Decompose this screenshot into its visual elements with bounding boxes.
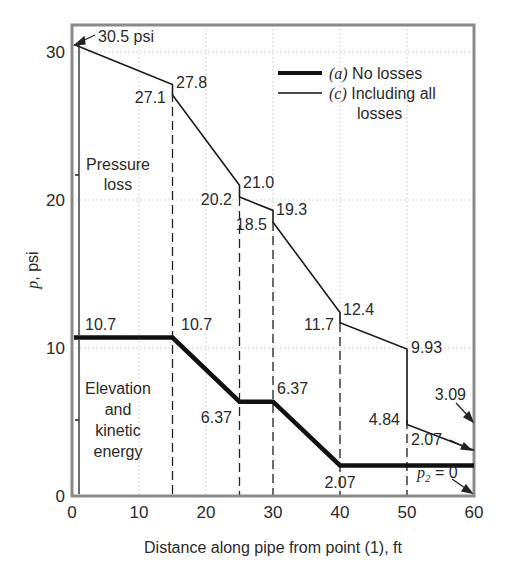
svg-text:19.3: 19.3 (276, 201, 307, 218)
svg-text:40: 40 (331, 503, 350, 522)
svg-text:Elevation: Elevation (85, 380, 151, 397)
y-axis-label: p, psi (24, 251, 42, 289)
svg-text:60: 60 (465, 503, 484, 522)
svg-text:(a) No losses: (a) No losses (329, 65, 422, 83)
y-tick-labels: 0 10 20 30 (46, 43, 65, 506)
svg-text:0: 0 (56, 487, 65, 506)
svg-text:50: 50 (398, 503, 417, 522)
svg-text:20: 20 (46, 191, 65, 210)
svg-text:11.7: 11.7 (304, 316, 334, 333)
svg-text:10.7: 10.7 (85, 316, 116, 333)
svg-text:(c) Including all: (c) Including all (329, 85, 436, 103)
svg-text:6.37: 6.37 (277, 380, 308, 397)
legend: (a) No losses (c) Including all losses (278, 65, 436, 122)
svg-text:10.7: 10.7 (181, 316, 212, 333)
svg-text:27.1: 27.1 (135, 89, 166, 106)
svg-text:4.84: 4.84 (369, 411, 400, 428)
svg-text:18.5: 18.5 (236, 216, 267, 233)
brackets (75, 45, 79, 494)
pressure-distribution-chart: 0 10 20 30 0 10 20 30 40 50 60 Distance … (0, 0, 505, 561)
svg-text:0: 0 (67, 503, 76, 522)
svg-text:27.8: 27.8 (176, 74, 207, 91)
x-axis-label: Distance along pipe from point (1), ft (144, 539, 402, 556)
svg-text:2.07: 2.07 (411, 431, 442, 448)
svg-text:9.93: 9.93 (411, 339, 442, 356)
svg-text:30: 30 (264, 503, 283, 522)
svg-text:kinetic: kinetic (95, 422, 140, 439)
x-tick-labels: 0 10 20 30 40 50 60 (67, 503, 483, 522)
section-dashed-lines (173, 93, 408, 496)
svg-text:and: and (105, 401, 132, 418)
region-captions: Pressure loss Elevation and kinetic ener… (85, 156, 151, 460)
svg-text:p2 = 0: p2 = 0 (416, 464, 458, 484)
svg-text:loss: loss (104, 176, 132, 193)
svg-text:10: 10 (46, 339, 65, 358)
svg-text:2.07: 2.07 (324, 474, 355, 491)
svg-text:30: 30 (46, 43, 65, 62)
svg-text:12.4: 12.4 (343, 301, 374, 318)
svg-text:21.0: 21.0 (243, 174, 274, 191)
svg-text:3.09: 3.09 (435, 386, 466, 403)
svg-text:losses: losses (357, 105, 402, 122)
svg-text:energy: energy (94, 443, 143, 460)
svg-text:10: 10 (130, 503, 149, 522)
svg-text:20: 20 (197, 503, 216, 522)
svg-text:6.37: 6.37 (201, 409, 232, 426)
svg-text:Pressure: Pressure (86, 156, 150, 173)
svg-text:20.2: 20.2 (201, 191, 232, 208)
svg-text:30.5 psi: 30.5 psi (98, 28, 154, 45)
